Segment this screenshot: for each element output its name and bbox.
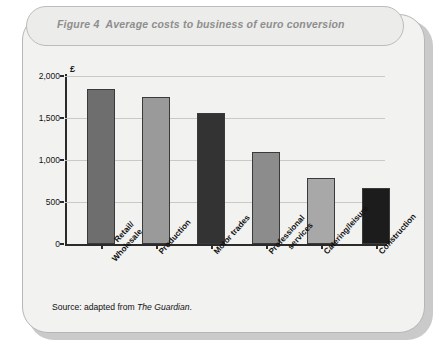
y-axis-tick-mark: [60, 75, 64, 77]
y-axis-tick-mark: [60, 243, 64, 245]
source-publication: The Guardian: [137, 302, 190, 312]
gridline: [65, 76, 385, 77]
source-note: Source: adapted from The Guardian.: [52, 302, 192, 312]
y-axis-tick-mark: [60, 159, 64, 161]
y-axis-tick-label: 2,000: [39, 71, 60, 81]
y-axis-tick-mark: [60, 201, 64, 203]
x-axis-tick-mark: [266, 245, 268, 249]
bar: [142, 97, 170, 244]
plot-area: [65, 76, 385, 244]
bar: [87, 89, 115, 244]
y-axis-tick-label: 1,000: [39, 155, 60, 165]
x-axis-tick-mark: [101, 245, 103, 249]
y-axis-tick-label: 1,500: [39, 113, 60, 123]
source-suffix: .: [190, 302, 192, 312]
y-axis-unit-label: £: [70, 64, 75, 74]
y-axis-tick-label: 500: [46, 197, 60, 207]
chart: £ 05001,0001,5002,000 Retail/WholesalePr…: [22, 14, 425, 333]
y-axis-tick-labels: 05001,0001,5002,000: [22, 76, 60, 244]
x-axis-tick-mark: [156, 245, 158, 249]
bar: [197, 113, 225, 244]
bar: [252, 152, 280, 244]
y-axis-tick-mark: [60, 117, 64, 119]
x-axis-tick-mark: [211, 245, 213, 249]
bar: [307, 178, 335, 244]
x-axis-tick-mark: [376, 245, 378, 249]
x-axis-tick-mark: [321, 245, 323, 249]
figure-container: Figure 4Average costs to business of eur…: [0, 0, 441, 354]
source-prefix: Source: adapted from: [52, 302, 137, 312]
